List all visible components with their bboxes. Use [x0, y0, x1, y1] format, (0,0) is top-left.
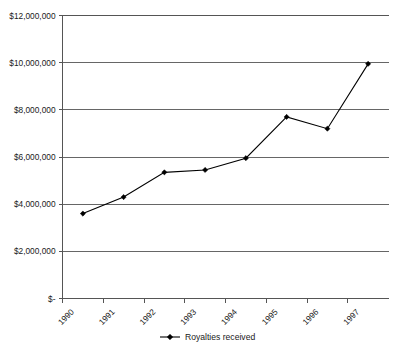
y-axis-label: $12,000,000	[9, 11, 56, 21]
chart-background	[0, 0, 393, 349]
y-axis-label: $6,000,000	[14, 152, 56, 162]
y-axis-label: $-	[48, 294, 56, 304]
y-axis-label: $4,000,000	[14, 199, 56, 209]
y-axis-label: $10,000,000	[9, 58, 56, 68]
legend-label: Royalties received	[185, 332, 255, 342]
chart-canvas: $-$2,000,000$4,000,000$6,000,000$8,000,0…	[0, 0, 393, 349]
y-axis-label: $2,000,000	[14, 246, 56, 256]
royalties-line-chart: $-$2,000,000$4,000,000$6,000,000$8,000,0…	[0, 0, 393, 349]
y-axis-label: $8,000,000	[14, 105, 56, 115]
